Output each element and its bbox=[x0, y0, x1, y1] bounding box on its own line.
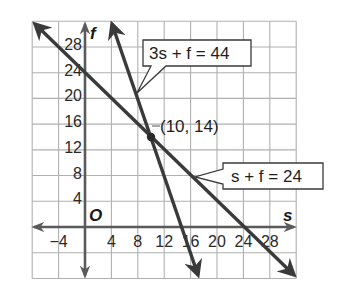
f-axis-label: f bbox=[90, 24, 98, 43]
f-tick-label: 16 bbox=[64, 113, 82, 130]
f-tick-label: 8 bbox=[73, 165, 82, 182]
f-tick-label: 24 bbox=[64, 62, 82, 79]
s-tick-label: 24 bbox=[235, 233, 253, 250]
callout-s-plus-f-24-text: s + f = 24 bbox=[231, 167, 302, 186]
callout-3s-plus-f-44: 3s + f = 44 bbox=[137, 40, 251, 93]
s-tick-label: 20 bbox=[208, 233, 226, 250]
intersection-point bbox=[147, 133, 155, 141]
s-axis-label: s bbox=[283, 206, 292, 225]
s-tick-label: −4 bbox=[49, 233, 67, 250]
f-tick-label: 28 bbox=[64, 36, 82, 53]
f-tick-label: 12 bbox=[64, 139, 82, 156]
f-tick-label: 20 bbox=[64, 87, 82, 104]
callout-s-plus-f-24: s + f = 24 bbox=[195, 163, 323, 189]
graph-figure: −4481216202428 481216202428 f s O (10, 1… bbox=[0, 0, 346, 301]
s-tick-label: 12 bbox=[155, 233, 173, 250]
f-tick-label: 4 bbox=[73, 190, 82, 207]
origin-label: O bbox=[89, 206, 102, 225]
s-tick-label: 8 bbox=[133, 233, 142, 250]
callout-3s-plus-f-44-text: 3s + f = 44 bbox=[149, 44, 229, 63]
intersection-label: (10, 14) bbox=[160, 117, 219, 136]
s-tick-label: 4 bbox=[107, 233, 116, 250]
